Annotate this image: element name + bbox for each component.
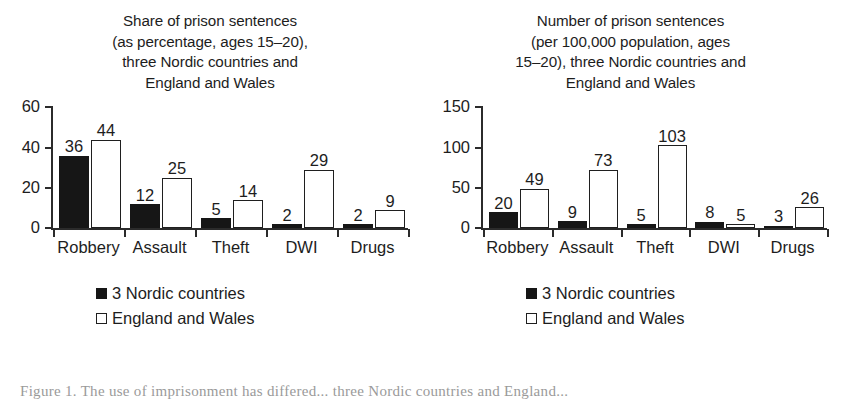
bar-group: 5103 [621, 107, 690, 228]
y-tick-label: 150 [442, 99, 470, 116]
bar-group: 229 [266, 107, 337, 228]
x-axis-label: Drugs [337, 239, 408, 256]
bar-value-label: 20 [494, 195, 512, 212]
x-axis-categories-rate: RobberyAssaultTheftDWIDrugs [483, 239, 827, 256]
y-tick: 0 [45, 227, 53, 229]
x-tick [408, 229, 410, 237]
bar-england-wales: 44 [91, 140, 121, 229]
x-tick [827, 229, 829, 237]
legend-label: England and Wales [112, 310, 254, 327]
title-line: England and Wales [420, 73, 841, 94]
y-tick: 20 [45, 187, 53, 189]
x-tick [758, 229, 760, 237]
title-line: three Nordic countries and [0, 52, 420, 73]
bar-value-label: 5 [637, 207, 646, 224]
x-tick [483, 229, 485, 237]
legend-rate: 3 Nordic countries England and Wales [420, 285, 841, 326]
bar-group: 514 [195, 107, 266, 228]
bar-value-label: 9 [568, 204, 577, 221]
x-tick [337, 229, 339, 237]
y-tick-label: 40 [22, 139, 40, 156]
bar-group: 29 [337, 107, 408, 228]
figure-caption-text: Figure 1. The use of imprisonment has di… [0, 383, 841, 400]
bar-england-wales: 25 [162, 178, 192, 228]
y-tick-label: 0 [461, 220, 470, 237]
title-line: 15–20), three Nordic countries and [420, 52, 841, 73]
x-axis-line [51, 228, 408, 230]
chart-panel-rate: Number of prison sentences (per 100,000 … [420, 0, 841, 334]
bar-groups-share: 3644122551422929 [53, 107, 408, 228]
bar-value-label: 49 [525, 171, 543, 188]
bar-value-label: 8 [705, 204, 714, 221]
bar-value-label: 26 [801, 190, 819, 207]
bar-value-label: 14 [239, 183, 257, 200]
bar-value-label: 44 [97, 122, 115, 139]
bar-england-wales: 49 [520, 189, 549, 229]
legend-item-nordic: 3 Nordic countries [526, 285, 841, 302]
x-tick [195, 229, 197, 237]
title-line: Number of prison sentences [420, 11, 841, 32]
x-axis-label: Drugs [758, 239, 827, 256]
bar-nordic: 20 [489, 212, 518, 228]
bar-nordic: 2 [272, 224, 302, 228]
bar-group: 85 [689, 107, 758, 228]
bar-group: 2049 [483, 107, 552, 228]
figure-caption: Figure 1. The use of imprisonment has di… [0, 383, 841, 400]
bar-england-wales: 26 [795, 207, 824, 228]
legend-label: 3 Nordic countries [542, 285, 675, 302]
bar-nordic: 5 [201, 218, 231, 228]
bar-england-wales: 9 [375, 210, 405, 228]
y-tick: 0 [475, 227, 483, 229]
x-axis-categories-share: RobberyAssaultTheftDWIDrugs [53, 239, 408, 256]
bar-value-label: 73 [594, 152, 612, 169]
chart-title-share: Share of prison sentences (as percentage… [0, 0, 420, 93]
y-tick-label: 100 [442, 139, 470, 156]
bar-nordic: 9 [558, 221, 587, 228]
y-tick: 150 [475, 106, 483, 108]
chart-title-rate: Number of prison sentences (per 100,000 … [420, 0, 841, 93]
figure-container: Share of prison sentences (as percentage… [0, 0, 841, 400]
bar-value-label: 29 [310, 152, 328, 169]
y-tick: 50 [475, 187, 483, 189]
legend-item-england-wales: England and Wales [96, 310, 420, 327]
x-tick [124, 229, 126, 237]
charts-row: Share of prison sentences (as percentage… [0, 0, 841, 334]
bar-nordic: 12 [130, 204, 160, 228]
x-tick [266, 229, 268, 237]
bar-group: 1225 [124, 107, 195, 228]
plot-area-share: 0 20 40 60 3644122551422929 RobberyAssau… [0, 101, 420, 251]
bar-nordic: 36 [59, 156, 89, 229]
x-tick [621, 229, 623, 237]
x-axis-label: DWI [689, 239, 758, 256]
y-tick-label: 50 [452, 179, 470, 196]
legend-share: 3 Nordic countries England and Wales [0, 285, 420, 326]
bar-value-label: 25 [168, 160, 186, 177]
hollow-square-icon [96, 313, 107, 324]
y-tick-label: 0 [31, 220, 40, 237]
x-axis-label: Robbery [53, 239, 124, 256]
bar-england-wales: 29 [304, 170, 334, 228]
bar-group: 3644 [53, 107, 124, 228]
bar-value-label: 103 [658, 128, 686, 145]
bar-england-wales: 73 [589, 170, 618, 229]
bar-value-label: 12 [136, 187, 154, 204]
y-tick-label: 60 [22, 99, 40, 116]
y-tick-label: 20 [22, 179, 40, 196]
x-axis-label: Assault [124, 239, 195, 256]
title-line: (as percentage, ages 15–20), [0, 32, 420, 53]
legend-label: 3 Nordic countries [112, 285, 245, 302]
bar-group: 973 [552, 107, 621, 228]
legend-item-england-wales: England and Wales [526, 310, 841, 327]
legend-item-nordic: 3 Nordic countries [96, 285, 420, 302]
plot-area-rate: 0 50 100 150 2049973510385326 RobberyAss… [420, 101, 841, 251]
bar-nordic: 3 [764, 226, 793, 228]
y-tick: 60 [45, 106, 53, 108]
x-axis-line [481, 228, 827, 230]
title-line: England and Wales [0, 73, 420, 94]
chart-panel-share: Share of prison sentences (as percentage… [0, 0, 420, 334]
y-tick: 40 [45, 147, 53, 149]
bar-groups-rate: 2049973510385326 [483, 107, 827, 228]
bar-value-label: 5 [736, 207, 745, 224]
y-tick: 100 [475, 147, 483, 149]
x-tick [689, 229, 691, 237]
